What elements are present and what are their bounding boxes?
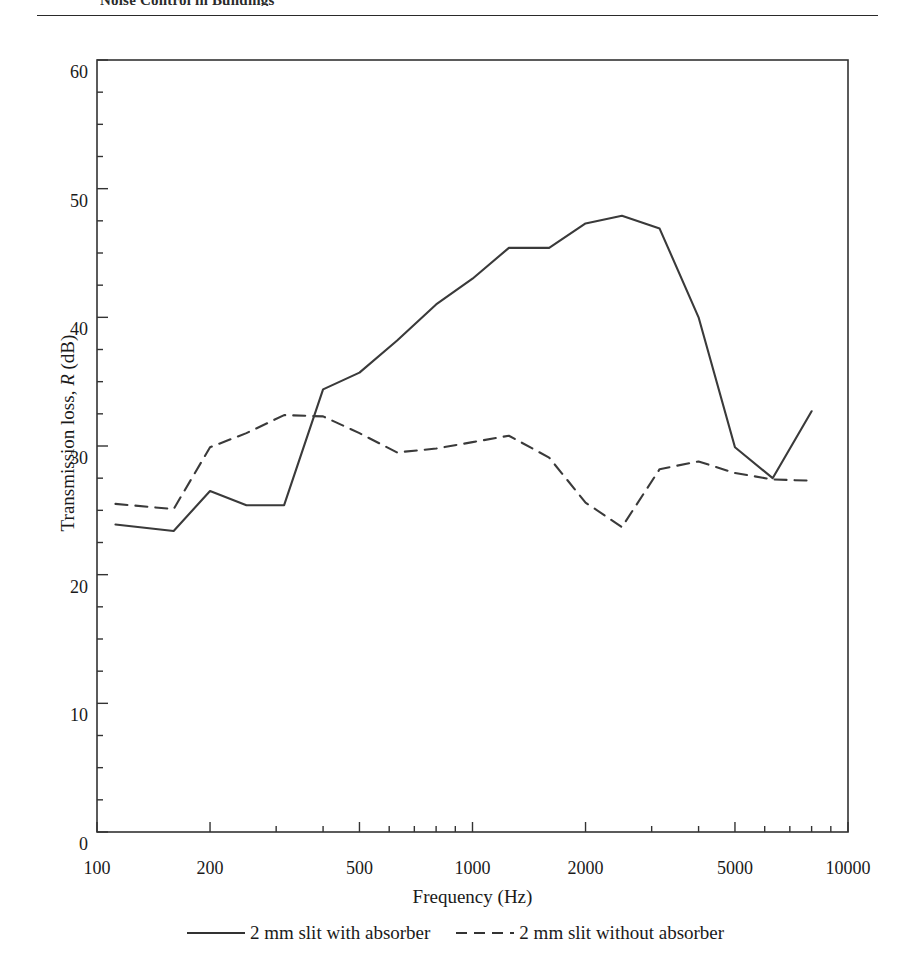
y-axis-label-suffix: (dB) (57, 335, 78, 375)
legend-label-solid: 2 mm slit with absorber (250, 922, 430, 944)
y-axis-label: Transmission loss, R (dB) (57, 303, 79, 563)
x-tick-label: 200 (197, 858, 224, 879)
chart-plot-area (0, 24, 911, 904)
legend-entry-dashed: 2 mm slit without absorber (456, 922, 724, 944)
x-tick-label: 10000 (826, 858, 871, 879)
chart-legend: 2 mm slit with absorber 2 mm slit withou… (0, 922, 911, 944)
y-tick-label: 10 (48, 705, 88, 726)
y-axis-label-symbol: R (57, 374, 78, 386)
y-tick-label: 30 (48, 448, 88, 469)
line-solid-icon (187, 927, 245, 939)
x-tick-label: 100 (84, 858, 111, 879)
series-line-without-absorber (115, 415, 811, 527)
y-tick-label: 40 (48, 319, 88, 340)
y-tick-label: 50 (48, 190, 88, 211)
y-tick-label: 20 (48, 576, 88, 597)
legend-entry-solid: 2 mm slit with absorber (187, 922, 430, 944)
x-tick-label: 1000 (455, 858, 491, 879)
y-tick-label: 60 (48, 62, 88, 83)
legend-label-dashed: 2 mm slit without absorber (519, 922, 724, 944)
x-axis-label: Frequency (Hz) (97, 886, 848, 908)
data-series-group (115, 216, 811, 531)
x-tick-label: 2000 (568, 858, 604, 879)
figure-transmission-loss: Transmission loss, R (dB) Frequency (Hz)… (0, 24, 911, 956)
series-line-with-absorber (115, 216, 811, 531)
y-axis-ticks (97, 60, 108, 832)
header-rule (37, 15, 878, 16)
y-tick-label: 0 (48, 834, 88, 855)
page: Noise Control in Buildings Transmission … (0, 0, 911, 956)
x-tick-label: 5000 (717, 858, 753, 879)
x-axis-ticks (97, 822, 848, 832)
x-tick-label: 500 (346, 858, 373, 879)
line-dashed-icon (456, 927, 514, 939)
running-header: Noise Control in Buildings (100, 0, 275, 6)
